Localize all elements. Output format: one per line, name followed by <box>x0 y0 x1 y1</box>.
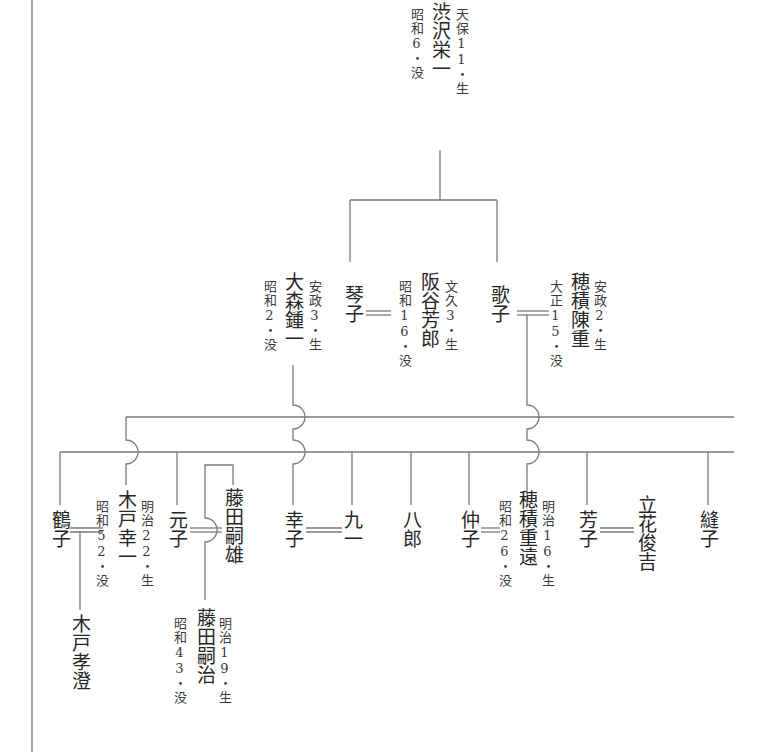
sakatani-birth: 文久3・生 <box>444 280 457 352</box>
person-sachiko: 幸子 <box>283 510 302 548</box>
person-kuichi: 九一 <box>342 510 361 548</box>
person-fujita-tsuguharu: 藤田嗣治 <box>195 608 214 684</box>
person-fujita-tsuguo: 藤田嗣雄 <box>223 488 242 564</box>
person-tachibana-shunkichi: 立花俊吉 <box>636 495 655 571</box>
hozumi-nobushige-death: 大正15・没 <box>549 280 562 368</box>
person-nakako: 仲子 <box>459 510 478 548</box>
person-tsuruko: 鶴子 <box>50 510 69 548</box>
person-hozumi-nobushige: 穂積陳重 <box>569 272 588 348</box>
hozumi-nobushige-birth: 安政2・生 <box>593 280 606 352</box>
kido-koichi-birth: 明治22・生 <box>140 500 153 588</box>
person-hachiro: 八郎 <box>401 510 420 548</box>
hozumi-shigeto-death: 昭和26・没 <box>498 500 511 588</box>
person-kotoko: 琴子 <box>343 285 362 323</box>
shibusawa-death: 昭和6・没 <box>410 8 423 80</box>
person-motoko: 元子 <box>167 510 186 548</box>
fujita-tsuguharu-birth: 明治19・生 <box>218 617 231 705</box>
kido-koichi-death: 昭和52・没 <box>95 500 108 588</box>
omori-death: 昭和2・没 <box>263 280 276 352</box>
hozumi-shigeto-birth: 明治16・生 <box>541 500 554 588</box>
person-yoshiko: 芳子 <box>577 510 596 548</box>
person-nuiko: 縫子 <box>698 510 717 548</box>
person-shibusawa-eiichi: 渋沢栄一 <box>430 2 449 78</box>
person-utako: 歌子 <box>489 285 508 323</box>
shibusawa-birth: 天保11・生 <box>455 8 468 96</box>
connector-lines <box>0 0 777 752</box>
genealogy-diagram: 昭和6・没 渋沢栄一 天保11・生 昭和2・没 大森鍾一 安政3・生 琴子 昭和… <box>0 0 777 752</box>
person-sakatani-yoshiro: 阪谷芳郎 <box>419 272 438 348</box>
omori-birth: 安政3・生 <box>308 280 321 352</box>
fujita-tsuguharu-death: 昭和43・没 <box>173 617 186 705</box>
person-kido-koichi: 木戸幸一 <box>116 490 135 566</box>
sakatani-death: 昭和16・没 <box>398 280 411 368</box>
person-hozumi-shigeto: 穂積重遠 <box>517 490 536 566</box>
person-omori-shoichi: 大森鍾一 <box>283 272 302 348</box>
person-kido-takazumi: 木戸孝澄 <box>70 614 89 690</box>
